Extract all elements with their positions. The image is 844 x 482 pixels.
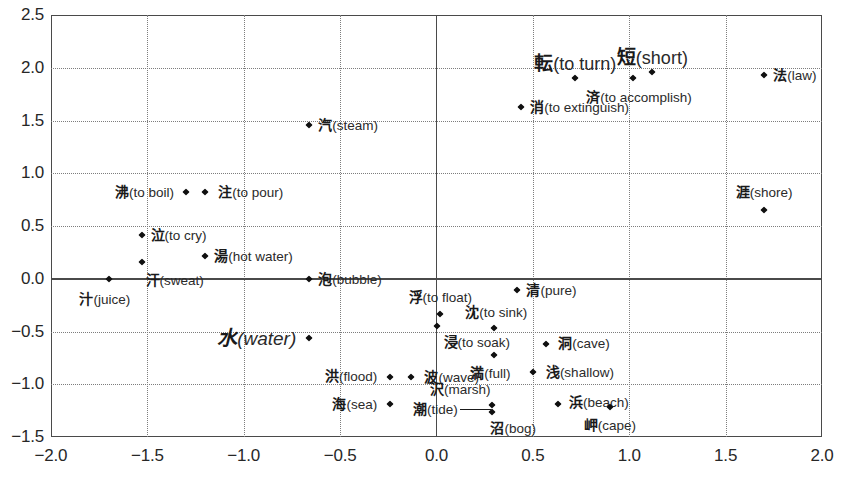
data-point[interactable]	[630, 75, 637, 82]
x-axis-tick-label: 2.0	[810, 446, 833, 466]
point-label-gloss: (to boil)	[129, 185, 174, 200]
data-point[interactable]	[649, 68, 656, 75]
point-label-gloss: (law)	[787, 68, 816, 83]
y-axis-tick-label: 2.5	[21, 5, 44, 25]
point-label: 海(sea)	[332, 397, 377, 412]
point-label-gloss: (flood)	[339, 369, 377, 384]
point-label-kanji: 水	[217, 326, 237, 350]
point-label: 短(short)	[617, 47, 688, 66]
point-label-gloss: (shore)	[750, 185, 793, 200]
x-axis-tick-label: −0.5	[324, 446, 357, 466]
tide-leader-line	[460, 409, 492, 410]
point-label-gloss: (steam)	[332, 117, 378, 132]
point-label: 転(to turn)	[534, 54, 616, 73]
data-point[interactable]	[518, 103, 525, 110]
point-label-kanji: 泡	[318, 271, 332, 287]
data-point[interactable]	[202, 252, 209, 259]
point-label-gloss: (to extinguish)	[544, 100, 629, 115]
data-point[interactable]	[543, 341, 550, 348]
data-point[interactable]	[491, 351, 498, 358]
point-label: 泣(to cry)	[151, 228, 207, 243]
point-label-kanji: 転	[534, 52, 553, 74]
data-point[interactable]	[408, 373, 415, 380]
scatter-plot-figure: −2.0−1.5−1.0−0.50.00.51.01.52.02.52.01.5…	[0, 0, 844, 482]
point-label-kanji: 潮	[413, 400, 427, 416]
point-label-gloss: (to sink)	[479, 305, 527, 320]
point-label-kanji: 法	[773, 67, 787, 83]
data-point[interactable]	[202, 189, 209, 196]
point-label-gloss: (beach)	[583, 395, 629, 410]
point-label-gloss: (cape)	[598, 418, 636, 433]
data-point[interactable]	[761, 72, 768, 79]
point-label-kanji: 浜	[569, 394, 583, 410]
point-label: 浮(to float)	[409, 289, 473, 304]
point-label-kanji: 短	[617, 45, 636, 67]
point-label-gloss: (to turn)	[553, 54, 616, 74]
y-axis-tick-label: −1.5	[11, 427, 44, 447]
point-label: 沸(to boil)	[115, 185, 174, 200]
plot-content-layer: −2.0−1.5−1.0−0.50.00.51.01.52.02.52.01.5…	[0, 0, 844, 482]
point-label-kanji: 岬	[584, 417, 598, 433]
data-point[interactable]	[572, 75, 579, 82]
point-label-gloss: (tide)	[427, 401, 458, 416]
point-label-gloss: (to soak)	[458, 335, 511, 350]
point-label-gloss: (bog)	[504, 420, 536, 435]
data-point[interactable]	[306, 275, 313, 282]
point-label: 潮(tide)	[413, 401, 458, 416]
point-label-gloss: (to float)	[423, 289, 473, 304]
data-point[interactable]	[554, 401, 561, 408]
data-point[interactable]	[437, 310, 444, 317]
point-label-gloss: (cave)	[572, 336, 610, 351]
point-label-gloss: (marsh)	[444, 382, 491, 397]
point-label: 汁(juice)	[79, 292, 130, 307]
data-point[interactable]	[306, 121, 313, 128]
data-point[interactable]	[387, 373, 394, 380]
point-label-kanji: 浅	[546, 363, 560, 379]
data-point[interactable]	[182, 189, 189, 196]
point-label-gloss: (pure)	[540, 283, 576, 298]
x-axis-tick-label: −1.5	[131, 446, 164, 466]
point-label-gloss: (sweat)	[160, 273, 204, 288]
point-label-kanji: 浸	[444, 334, 458, 350]
point-label-kanji: 沼	[490, 419, 504, 435]
point-label: 沈(to sink)	[465, 305, 527, 320]
point-label-kanji: 海	[332, 396, 346, 412]
point-label-gloss: (bubble)	[332, 272, 382, 287]
point-label: 注(to pour)	[218, 185, 283, 200]
point-label-kanji: 洞	[558, 335, 572, 351]
y-axis-tick-label: 0.0	[21, 269, 44, 289]
point-label-kanji: 清	[526, 282, 540, 298]
data-point[interactable]	[529, 368, 536, 375]
x-axis-tick-label: 0.5	[521, 446, 544, 466]
point-label-kanji: 沢	[430, 381, 444, 397]
point-label-gloss: (sea)	[346, 397, 377, 412]
y-axis-tick-label: 0.5	[21, 216, 44, 236]
point-label-kanji: 浮	[409, 288, 423, 304]
x-axis-tick-label: 0.0	[425, 446, 448, 466]
data-point[interactable]	[105, 275, 112, 282]
y-axis-tick-label: 1.5	[21, 111, 44, 131]
point-label-gloss: (to cry)	[165, 228, 207, 243]
data-point[interactable]	[138, 232, 145, 239]
point-label: 汗(sweat)	[146, 273, 204, 288]
data-point[interactable]	[433, 323, 440, 330]
point-label: 泡(bubble)	[318, 272, 382, 287]
x-axis-tick-label: 1.5	[714, 446, 737, 466]
data-point[interactable]	[761, 207, 768, 214]
x-axis-tick-label: −1.0	[227, 446, 260, 466]
point-label: 洪(flood)	[325, 369, 377, 384]
bottom-edge-strip	[0, 472, 844, 482]
data-point[interactable]	[138, 258, 145, 265]
data-point[interactable]	[387, 401, 394, 408]
data-point[interactable]	[489, 408, 496, 415]
point-label-gloss: (short)	[636, 47, 688, 67]
x-axis-tick-label: 1.0	[618, 446, 641, 466]
point-label-gloss: (juice)	[93, 292, 130, 307]
point-label-kanji: 汽	[318, 116, 332, 132]
point-label-kanji: 消	[530, 99, 544, 115]
point-label-gloss: (hot water)	[228, 248, 293, 263]
data-point[interactable]	[514, 287, 521, 294]
point-label: 浅(shallow)	[546, 364, 614, 379]
data-point[interactable]	[306, 334, 313, 341]
point-label-kanji: 泣	[151, 227, 165, 243]
